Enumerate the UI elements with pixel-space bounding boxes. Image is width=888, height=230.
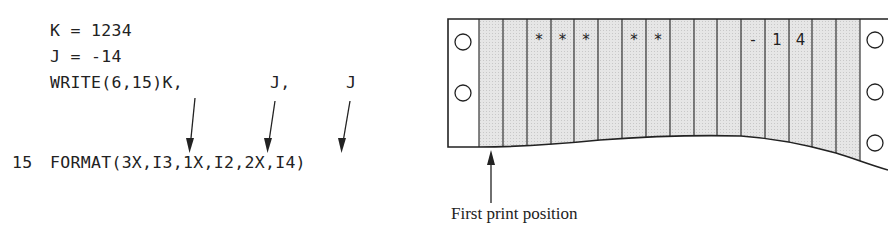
first-position-arrow (487, 150, 495, 203)
print-cell-12: - (750, 31, 755, 49)
print-cell-5: * (582, 31, 590, 49)
sprocket-hole-icon (867, 32, 883, 48)
sprocket-hole-icon (867, 135, 883, 151)
print-cell-3: * (535, 31, 543, 49)
sprocket-hole-icon (867, 84, 883, 100)
print-cell-7: * (630, 31, 638, 49)
print-cell-14: 4 (796, 31, 806, 49)
sprocket-hole-icon (455, 85, 471, 101)
printer-paper-diagram: * * * * * - 1 4 (0, 0, 888, 230)
print-cell-8: * (654, 31, 662, 49)
sprocket-hole-icon (455, 34, 471, 50)
print-cell-13: 1 (772, 31, 782, 49)
print-cell-4: * (559, 31, 567, 49)
first-print-position-caption: First print position (451, 204, 578, 224)
